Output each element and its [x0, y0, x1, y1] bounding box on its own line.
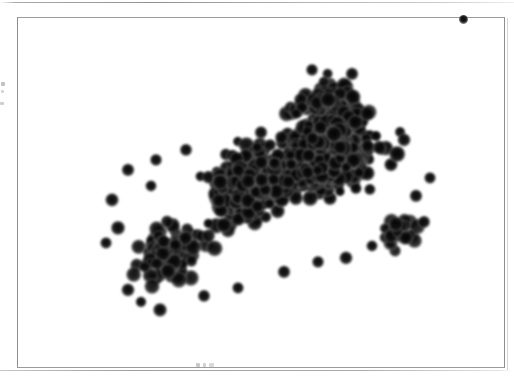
gutter-mark — [0, 102, 4, 105]
figure-frame — [17, 17, 505, 368]
micrograph-title-text — [0, 0, 1, 1]
micrograph-image — [18, 18, 504, 367]
scanned-page: dense elongated cluster of dark-stained … — [0, 0, 514, 385]
frame-shadow-bottom — [0, 370, 514, 371]
smudge-mark — [196, 363, 200, 367]
smudge-mark — [209, 363, 214, 367]
gutter-offcut-marks — [0, 82, 6, 112]
ink-speck-icon — [459, 15, 468, 24]
scan-top-rule — [0, 2, 514, 3]
micrograph-caption-text — [0, 0, 1, 1]
cluster-description-text: dense elongated cluster of dark-stained … — [0, 0, 1, 1]
smudge-mark — [203, 363, 206, 367]
gutter-mark — [1, 90, 4, 93]
gutter-mark — [1, 82, 5, 86]
cell-cluster-canvas — [18, 18, 504, 367]
caption-smudge — [196, 363, 218, 368]
frame-shadow-right — [507, 18, 508, 370]
